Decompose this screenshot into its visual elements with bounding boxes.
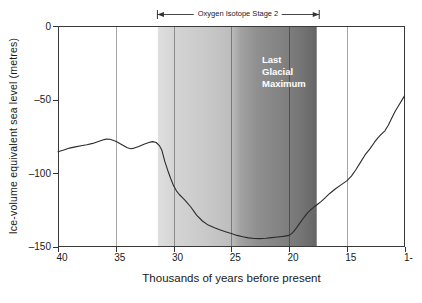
stage2-arrowhead-right-icon: [313, 12, 320, 17]
x-tick-label-15: 15: [345, 252, 357, 263]
sea-level-chart: 4035302520151-0–50–100–150 Ice-volume eq…: [0, 0, 422, 303]
lgm-label: Last Glacial Maximum: [262, 54, 306, 90]
x-tick-label-20: 20: [287, 252, 299, 263]
y-tick-label-–100: –100: [29, 168, 52, 179]
y-axis-title: Ice-volume equivalent sea level (metres): [7, 38, 19, 235]
stage2-annotation-label: Oxygen Isotope Stage 2: [194, 9, 282, 19]
y-tick-label-–50: –50: [34, 94, 51, 105]
x-tick-label-1-: 1-: [404, 252, 413, 263]
lgm-label-line3: Maximum: [262, 78, 306, 90]
stage2-arrowhead-left-icon: [157, 12, 164, 17]
lgm-label-line2: Glacial: [262, 66, 306, 78]
y-tick-label-–150: –150: [29, 241, 52, 252]
y-tick-label-0: 0: [45, 21, 51, 32]
x-tick-label-25: 25: [230, 252, 242, 263]
x-tick-label-30: 30: [172, 252, 184, 263]
x-axis-title: Thousands of years before present: [58, 272, 405, 284]
lgm-label-line1: Last: [262, 54, 306, 66]
x-tick-label-40: 40: [56, 252, 68, 263]
plot-area: 4035302520151-0–50–100–150: [0, 0, 422, 303]
x-tick-label-35: 35: [114, 252, 126, 263]
